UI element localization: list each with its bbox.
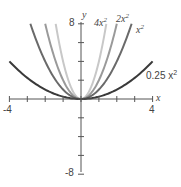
y-min-label: -8 [65, 167, 74, 178]
label-025x2: 0.25 x2 [146, 69, 177, 81]
x-axis-label: x [155, 92, 161, 103]
label-2x2: 2x2 [116, 12, 129, 24]
label-x2: x2 [135, 23, 144, 35]
x-min-label: -4 [3, 104, 12, 115]
y-axis-label: y [81, 9, 87, 20]
y-max-label: 8 [69, 17, 75, 28]
parabola-chart: x y -4 4 8 -8 4x2 2x2 x2 0.25 x2 [0, 0, 181, 187]
x-max-label: 4 [149, 104, 155, 115]
